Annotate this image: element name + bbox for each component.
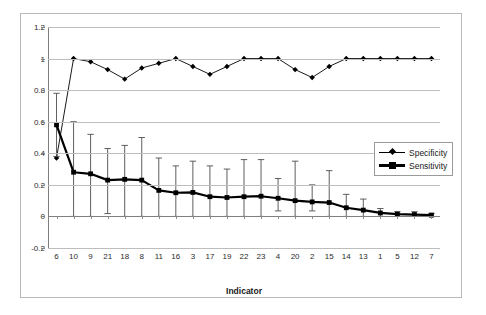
x-tick-mark [295, 216, 296, 219]
x-tick-mark [397, 216, 398, 219]
x-tick-mark [363, 216, 364, 219]
data-point-marker [327, 64, 332, 69]
x-tick-mark [261, 216, 262, 219]
plot-area [48, 27, 440, 248]
x-tick-mark [329, 216, 330, 219]
data-point-marker [156, 188, 161, 193]
gridline [48, 185, 440, 186]
x-tick-label: 14 [342, 252, 351, 261]
data-point-marker [309, 75, 314, 80]
legend-marker-diamond-icon [379, 147, 405, 158]
y-tick-mark [41, 27, 45, 28]
data-point-marker [54, 122, 59, 127]
y-tick-mark [41, 248, 45, 249]
y-tick-mark [41, 216, 45, 217]
gridline [48, 90, 440, 91]
x-tick-label: 12 [410, 252, 419, 261]
data-point-marker [105, 67, 110, 72]
x-tick-label: 5 [395, 252, 399, 261]
legend-item-specificity: Specificity [379, 146, 447, 159]
x-tick-label: 2 [310, 252, 314, 261]
x-tick-mark [142, 216, 143, 219]
data-point-marker [310, 200, 315, 205]
x-tick-mark [210, 216, 211, 219]
data-point-marker [292, 67, 297, 72]
x-tick-mark [312, 216, 313, 219]
x-tick-label: 6 [54, 252, 58, 261]
x-tick-label: 1 [378, 252, 382, 261]
x-tick-mark [91, 216, 92, 219]
x-tick-label: 17 [205, 252, 214, 261]
x-tick-label: 9 [88, 252, 92, 261]
gridline [48, 248, 440, 249]
y-tick-mark [41, 59, 45, 60]
x-tick-label: 4 [276, 252, 280, 261]
x-tick-mark [414, 216, 415, 219]
data-point-marker [173, 190, 178, 195]
data-point-marker [208, 194, 213, 199]
x-tick-label: 20 [291, 252, 300, 261]
data-point-marker [122, 177, 127, 182]
x-tick-mark [244, 216, 245, 219]
data-point-marker [225, 195, 230, 200]
x-tick-label: 18 [120, 252, 129, 261]
x-tick-label: 21 [103, 252, 112, 261]
chart-legend: Specificity Sensitivity [374, 142, 453, 176]
data-point-marker [71, 170, 76, 175]
x-tick-label: 10 [69, 252, 78, 261]
x-axis-title: Indicator [48, 286, 440, 296]
x-tick-mark [74, 216, 75, 219]
series-layer [48, 27, 440, 248]
data-point-marker [344, 205, 349, 210]
x-tick-label: 13 [359, 252, 368, 261]
x-tick-mark [159, 216, 160, 219]
x-tick-label: 7 [429, 252, 433, 261]
data-point-marker [156, 61, 161, 66]
legend-label-specificity: Specificity [409, 148, 447, 158]
data-point-marker [88, 59, 93, 64]
data-point-marker [139, 65, 144, 70]
x-tick-label: 8 [140, 252, 144, 261]
x-tick-label: 23 [257, 252, 266, 261]
data-point-marker [242, 194, 247, 199]
gridline [48, 59, 440, 60]
data-point-marker [88, 171, 93, 176]
x-tick-label: 16 [171, 252, 180, 261]
chart-page: 1.210.80.60.40.20-0.2 610921188111631719… [0, 0, 486, 315]
data-point-marker [276, 196, 281, 201]
data-point-marker [207, 72, 212, 77]
data-point-marker [190, 64, 195, 69]
data-point-marker [293, 198, 298, 203]
data-point-marker [190, 190, 195, 195]
x-tick-mark [346, 216, 347, 219]
y-tick-mark [41, 90, 45, 91]
x-tick-mark [176, 216, 177, 219]
x-tick-mark [431, 216, 432, 219]
data-point-marker [122, 76, 127, 81]
x-tick-label: 22 [240, 252, 249, 261]
data-point-marker [259, 194, 264, 199]
gridline [48, 122, 440, 123]
x-tick-mark [125, 216, 126, 219]
legend-item-sensitivity: Sensitivity [379, 159, 447, 172]
x-tick-label: 3 [191, 252, 195, 261]
data-point-marker [361, 208, 366, 213]
x-tick-mark [57, 216, 58, 219]
legend-marker-square-icon [379, 160, 405, 171]
x-axis-labels: 6109211881116317192223420215141315127 [48, 252, 440, 266]
y-tick-mark [41, 153, 45, 154]
x-tick-mark [108, 216, 109, 219]
y-tick-mark [41, 122, 45, 123]
x-tick-mark [227, 216, 228, 219]
data-point-marker [327, 200, 332, 205]
x-tick-mark [278, 216, 279, 219]
data-point-marker [378, 211, 383, 216]
x-tick-label: 15 [325, 252, 334, 261]
chart-frame: 1.210.80.60.40.20-0.2 610921188111631719… [20, 13, 462, 298]
x-tick-label: 11 [155, 252, 163, 261]
x-tick-mark [193, 216, 194, 219]
x-tick-mark [380, 216, 381, 219]
gridline [48, 27, 440, 28]
y-axis-labels: 1.210.80.60.40.20-0.2 [21, 27, 45, 248]
data-point-marker [224, 64, 229, 69]
